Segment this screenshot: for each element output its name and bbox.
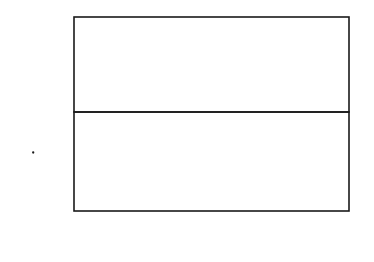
figure-background [0, 0, 374, 262]
fdot-overdot-icon [32, 151, 34, 153]
plot-svg [0, 0, 374, 262]
figure-container [0, 0, 374, 262]
